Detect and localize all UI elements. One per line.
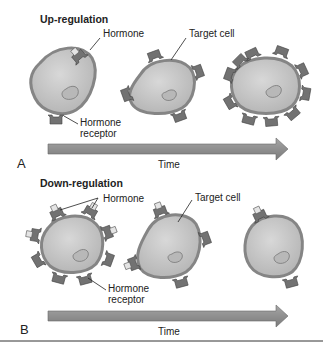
label-target-cell-b: Target cell <box>195 192 241 203</box>
cell-b1 <box>25 198 119 290</box>
panel-a: Up-regulation Hormone Hormone receptor T… <box>17 13 311 171</box>
label-target-cell-a: Target cell <box>189 28 235 39</box>
time-arrow-a <box>48 138 288 160</box>
label-receptor-b-2: receptor <box>108 294 145 305</box>
label-receptor-a-2: receptor <box>80 128 117 139</box>
panel-letter-a: A <box>17 156 26 171</box>
time-label-a: Time <box>158 159 180 170</box>
cell-a3 <box>222 45 311 127</box>
hormone-regulation-figure: Up-regulation Hormone Hormone receptor T… <box>0 0 323 343</box>
panel-a-title: Up-regulation <box>40 13 108 25</box>
cell-a2 <box>120 38 205 123</box>
panel-b-title: Down-regulation <box>40 177 123 189</box>
panel-letter-b: B <box>20 322 29 337</box>
cell-a1 <box>31 38 100 124</box>
label-receptor-b-1: Hormone <box>108 283 150 294</box>
label-hormone-b: Hormone <box>103 193 145 204</box>
label-receptor-a-1: Hormone <box>80 117 122 128</box>
diagram-canvas: Up-regulation Hormone Hormone receptor T… <box>0 0 323 343</box>
cell-b3 <box>245 204 302 289</box>
time-arrow-b <box>48 305 288 327</box>
label-hormone-a: Hormone <box>103 28 145 39</box>
time-label-b: Time <box>158 326 180 337</box>
panel-b: Down-regulation Hormone Hormone receptor <box>20 177 302 337</box>
cell-b2 <box>122 200 212 289</box>
